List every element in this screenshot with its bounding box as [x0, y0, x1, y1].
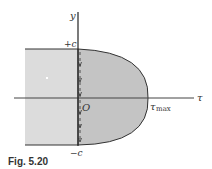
- tau-max-label: τ max: [150, 101, 171, 113]
- shear-stress-parabola: [78, 49, 148, 145]
- tau-max-subscript: max: [156, 105, 171, 113]
- speck: [46, 77, 48, 79]
- figure-caption: Fig. 5.20: [8, 156, 48, 167]
- bottom-label: −c: [70, 148, 83, 158]
- top-label: +c: [64, 39, 77, 49]
- origin-label: O: [82, 102, 90, 113]
- beam-section: [25, 49, 78, 145]
- shear-stress-distribution-diagram: y +c O −c τ τ max Fig. 5.20: [0, 0, 212, 169]
- y-axis-label: y: [69, 10, 76, 21]
- tau-axis-label: τ: [197, 92, 203, 103]
